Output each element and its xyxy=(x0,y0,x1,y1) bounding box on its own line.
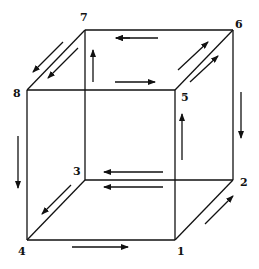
vertex-label-3: 3 xyxy=(73,166,81,177)
arrow-icon xyxy=(205,196,233,224)
arrow-icon xyxy=(178,42,208,70)
edge-2-1 xyxy=(175,180,233,240)
vertex-label-8: 8 xyxy=(13,88,21,99)
edge-5-6 xyxy=(175,30,233,90)
direction-arrows xyxy=(18,38,241,247)
vertex-label-1: 1 xyxy=(177,246,185,257)
cube-graph-svg xyxy=(0,0,259,269)
cube-edges xyxy=(27,30,233,240)
vertex-label-7: 7 xyxy=(80,12,88,23)
vertex-label-5: 5 xyxy=(181,92,189,103)
edge-3-4 xyxy=(27,180,85,240)
vertex-label-4: 4 xyxy=(18,246,26,257)
edge-8-7 xyxy=(27,30,85,90)
vertex-label-2: 2 xyxy=(240,177,248,188)
cube-diagram: 12345678 xyxy=(0,0,259,269)
vertex-label-6: 6 xyxy=(235,19,243,30)
